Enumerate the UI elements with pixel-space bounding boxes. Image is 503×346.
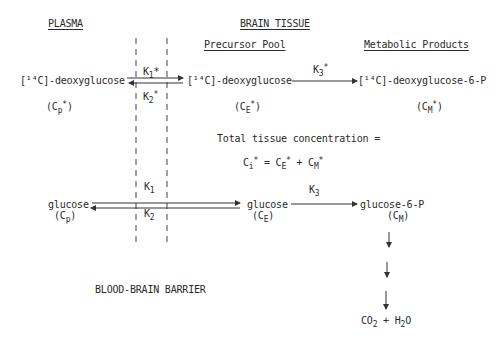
- precursor-tracer-symbol: (CE*): [234, 101, 261, 113]
- heading-precursor-pool: Precursor Pool: [204, 39, 286, 51]
- k3-label: K3: [309, 184, 319, 196]
- heading-brain-tissue: BRAIN TISSUE: [240, 18, 310, 30]
- k3-star-label: K3*: [313, 64, 328, 76]
- precursor-glucose-symbol: (CE): [252, 210, 274, 222]
- k1-label: K1: [144, 181, 154, 193]
- blood-brain-barrier-label: BLOOD-BRAIN BARRIER: [95, 284, 206, 296]
- precursor-tracer-label: [¹⁴C]-deoxyglucose: [187, 75, 292, 87]
- plasma-tracer-symbol: (Cp*): [46, 101, 73, 113]
- end-products-label: CO2 + H2O: [361, 315, 411, 327]
- plasma-tracer-label: [¹⁴C]-deoxyglucose: [20, 75, 125, 87]
- heading-plasma: PLASMA: [48, 18, 83, 30]
- k1-star-label: K1*: [143, 66, 159, 78]
- total-concentration-label: Total tissue concentration =: [217, 133, 380, 145]
- product-tracer-symbol: (CM*): [416, 101, 443, 113]
- plasma-glucose-symbol: (Cp): [54, 210, 76, 222]
- product-glucose-symbol: (CM): [387, 210, 409, 222]
- heading-metabolic-products: Metabolic Products: [364, 39, 469, 51]
- diagram-lines: [0, 0, 503, 346]
- k2-label: K2: [144, 208, 154, 220]
- k2-star-label: K2*: [143, 91, 158, 103]
- product-tracer-label: [¹⁴C]-deoxyglucose-6-P: [358, 75, 486, 87]
- total-concentration-equation: Ci* = CE* + CM*: [243, 157, 323, 169]
